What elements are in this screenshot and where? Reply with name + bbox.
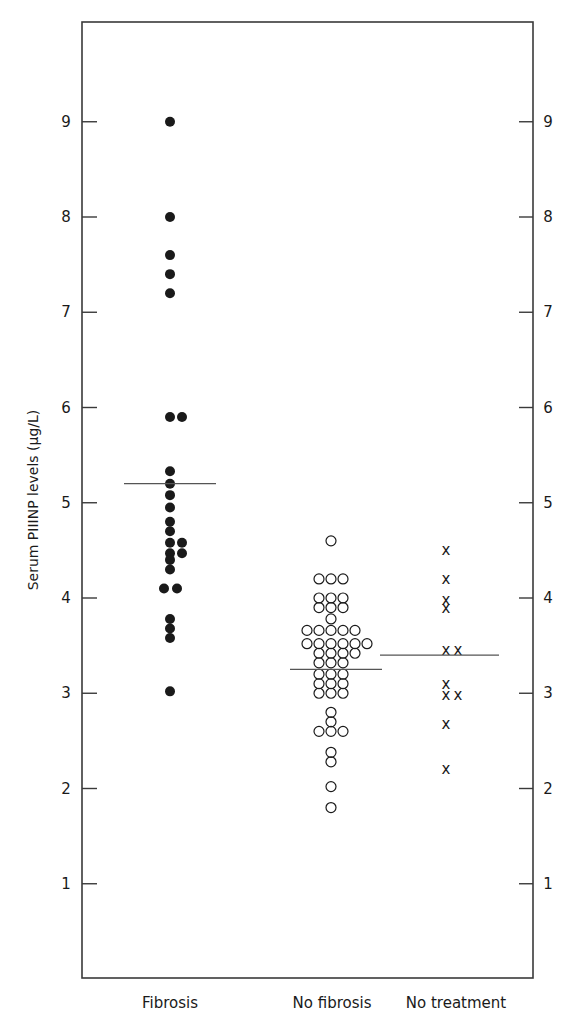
left-y-axis: 123456789 — [61, 113, 97, 893]
y-tick-label-right: 1 — [543, 875, 553, 893]
data-point-no-fibrosis — [326, 782, 336, 792]
data-point-fibrosis — [165, 517, 175, 527]
category-label-fibrosis: Fibrosis — [142, 994, 198, 1012]
right-y-axis: 123456789 — [519, 113, 553, 893]
data-point-no-fibrosis — [314, 669, 324, 679]
data-point-fibrosis — [165, 288, 175, 298]
data-point-no-fibrosis — [326, 679, 336, 689]
data-point-no-fibrosis — [314, 625, 324, 635]
data-point-no-treatment: x — [442, 760, 451, 778]
data-point-fibrosis — [165, 466, 175, 476]
data-point-no-fibrosis — [326, 574, 336, 584]
y-axis-title: Serum PIIINP levels (µg/L) — [25, 410, 41, 591]
series-no-fibrosis — [302, 536, 372, 813]
data-point-fibrosis — [165, 490, 175, 500]
data-point-fibrosis — [165, 686, 175, 696]
data-point-no-fibrosis — [326, 757, 336, 767]
data-point-no-treatment: x — [442, 686, 451, 704]
data-point-no-fibrosis — [338, 648, 348, 658]
y-tick-label: 1 — [61, 875, 71, 893]
data-point-no-fibrosis — [326, 726, 336, 736]
data-point-no-fibrosis — [362, 639, 372, 649]
data-point-fibrosis — [165, 623, 175, 633]
data-point-no-treatment: x — [442, 570, 451, 588]
data-point-no-fibrosis — [326, 603, 336, 613]
data-point-no-fibrosis — [314, 639, 324, 649]
y-tick-label: 5 — [61, 494, 71, 512]
data-point-no-treatment: x — [442, 541, 451, 559]
data-point-fibrosis — [165, 614, 175, 624]
y-tick-label: 2 — [61, 780, 71, 798]
y-tick-label-right: 8 — [543, 208, 553, 226]
data-point-no-fibrosis — [314, 593, 324, 603]
data-point-no-fibrosis — [338, 688, 348, 698]
data-point-fibrosis — [177, 412, 187, 422]
data-point-no-fibrosis — [350, 625, 360, 635]
y-tick-label: 8 — [61, 208, 71, 226]
y-tick-label-right: 3 — [543, 684, 553, 702]
data-point-fibrosis — [165, 526, 175, 536]
y-tick-label-right: 5 — [543, 494, 553, 512]
data-point-fibrosis — [177, 538, 187, 548]
data-point-no-fibrosis — [338, 639, 348, 649]
series-no-treatment: xxxxxxxxxxx — [442, 541, 463, 778]
data-point-no-fibrosis — [326, 593, 336, 603]
data-point-no-fibrosis — [302, 639, 312, 649]
data-point-fibrosis — [165, 117, 175, 127]
y-tick-label: 9 — [61, 113, 71, 131]
data-point-no-fibrosis — [326, 614, 336, 624]
y-tick-label-right: 9 — [543, 113, 553, 131]
data-point-fibrosis — [177, 548, 187, 558]
chart: 123456789 123456789 Serum PIIINP levels … — [0, 0, 576, 1025]
data-point-no-fibrosis — [326, 639, 336, 649]
data-point-fibrosis — [165, 633, 175, 643]
plot-frame — [82, 22, 533, 978]
y-tick-label-right: 7 — [543, 303, 553, 321]
series-fibrosis — [159, 117, 187, 697]
data-point-no-fibrosis — [326, 536, 336, 546]
data-point-fibrosis — [165, 564, 175, 574]
data-point-no-fibrosis — [314, 603, 324, 613]
data-point-no-treatment: x — [442, 641, 451, 659]
data-point-fibrosis — [165, 269, 175, 279]
data-point-fibrosis — [172, 583, 182, 593]
data-point-no-fibrosis — [314, 726, 324, 736]
data-point-no-treatment: x — [442, 715, 451, 733]
data-point-no-fibrosis — [350, 639, 360, 649]
data-point-no-fibrosis — [338, 658, 348, 668]
y-tick-label: 3 — [61, 684, 71, 702]
data-point-no-fibrosis — [338, 669, 348, 679]
data-point-no-fibrosis — [326, 669, 336, 679]
data-point-no-treatment: x — [454, 686, 463, 704]
y-tick-label: 4 — [61, 589, 71, 607]
data-point-no-fibrosis — [338, 625, 348, 635]
data-point-no-fibrosis — [338, 574, 348, 584]
data-point-fibrosis — [165, 250, 175, 260]
category-label-no-fibrosis: No fibrosis — [293, 994, 372, 1012]
data-point-no-fibrosis — [314, 679, 324, 689]
data-point-no-fibrosis — [326, 707, 336, 717]
data-point-no-treatment: x — [454, 641, 463, 659]
y-tick-label-right: 2 — [543, 780, 553, 798]
y-tick-label: 6 — [61, 399, 71, 417]
y-tick-label-right: 6 — [543, 399, 553, 417]
data-point-no-fibrosis — [338, 603, 348, 613]
data-point-no-fibrosis — [314, 658, 324, 668]
data-point-no-fibrosis — [326, 625, 336, 635]
data-point-no-fibrosis — [326, 717, 336, 727]
data-point-no-fibrosis — [326, 688, 336, 698]
data-point-fibrosis — [159, 583, 169, 593]
y-tick-label: 7 — [61, 303, 71, 321]
data-point-fibrosis — [165, 555, 175, 565]
data-point-no-fibrosis — [338, 726, 348, 736]
data-point-no-fibrosis — [302, 625, 312, 635]
data-point-fibrosis — [165, 503, 175, 513]
data-point-no-fibrosis — [326, 803, 336, 813]
y-tick-label-right: 4 — [543, 589, 553, 607]
data-point-no-fibrosis — [338, 593, 348, 603]
data-point-no-fibrosis — [326, 747, 336, 757]
data-point-no-fibrosis — [338, 679, 348, 689]
data-point-fibrosis — [165, 212, 175, 222]
data-point-no-fibrosis — [326, 658, 336, 668]
data-point-no-fibrosis — [326, 648, 336, 658]
